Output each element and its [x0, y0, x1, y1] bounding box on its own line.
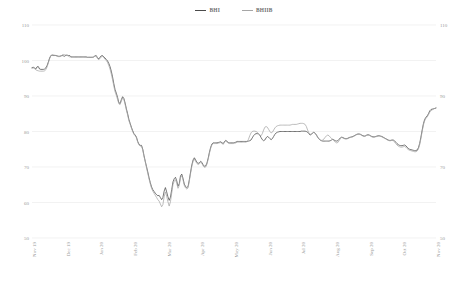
y-tick-right-50: 50: [440, 236, 445, 241]
line-chart: BHI BHIIB 1101009080706050110907050 Nov …: [0, 0, 468, 282]
x-tick-oct-20: Oct 20: [402, 242, 407, 255]
y-tick-left-80: 80: [24, 129, 29, 134]
x-tick-feb-20: Feb 20: [133, 242, 138, 256]
series-line-bhiib: [32, 54, 436, 206]
series-lines: [32, 54, 436, 206]
plot-svg: [32, 25, 436, 238]
y-tick-right-90: 90: [440, 94, 445, 99]
x-tick-nov-19: Nov 19: [32, 242, 37, 257]
y-tick-right-110: 110: [440, 23, 447, 28]
y-tick-left-110: 110: [22, 23, 29, 28]
x-tick-may-20: May 20: [234, 242, 239, 257]
x-tick-jun-20: Jun 20: [268, 242, 273, 255]
x-tick-jan-20: Jan 20: [99, 242, 104, 255]
x-tick-nov-20: Nov 20: [436, 242, 441, 257]
legend-label-bhiib: BHIIB: [256, 8, 273, 13]
x-tick-apr-20: Apr 20: [200, 242, 205, 256]
x-tick-dec-19: Dec 19: [66, 242, 71, 256]
y-tick-left-60: 60: [24, 200, 29, 205]
y-tick-left-50: 50: [24, 236, 29, 241]
legend-item-bhi[interactable]: BHI: [195, 8, 220, 13]
legend-item-bhiib[interactable]: BHIIB: [242, 8, 273, 13]
x-tick-jul-20: Jul 20: [301, 242, 306, 254]
legend-swatch-bhiib: [242, 10, 253, 11]
x-tick-sep-20: Sep 20: [369, 242, 374, 256]
legend-label-bhi: BHI: [209, 8, 220, 13]
legend-swatch-bhi: [195, 10, 206, 11]
plot-area: 1101009080706050110907050 Nov 19Dec 19Ja…: [32, 25, 436, 238]
y-tick-right-70: 70: [440, 165, 445, 170]
x-tick-aug-20: Aug 20: [335, 242, 340, 257]
series-line-bhi: [32, 55, 436, 200]
y-tick-left-70: 70: [24, 165, 29, 170]
y-tick-left-90: 90: [24, 94, 29, 99]
y-tick-left-100: 100: [22, 58, 30, 63]
chart-legend: BHI BHIIB: [0, 8, 468, 13]
x-tick-mar-20: Mar 20: [167, 242, 172, 257]
